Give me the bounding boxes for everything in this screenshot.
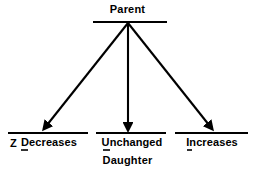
outcome-label-increases: Increases [175, 137, 249, 148]
parent-daughter-diagram: Parent Z Decreases Unchanged Increases D… [0, 0, 255, 176]
outcome-label-unchanged: Unchanged [96, 137, 168, 148]
daughter-label: Daughter [0, 155, 255, 166]
parent-label: Parent [0, 4, 255, 15]
arrow-to-increases [128, 23, 209, 125]
arrow-to-decreases [47, 23, 128, 125]
outcome-label-decreases: Decreases [8, 137, 90, 148]
diagram-graphics [0, 0, 255, 176]
